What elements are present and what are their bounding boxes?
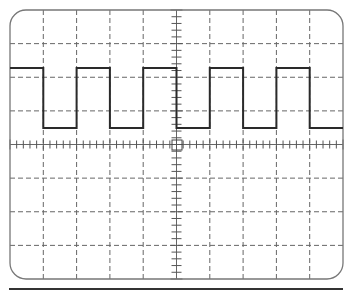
oscilloscope-screen	[0, 0, 353, 295]
